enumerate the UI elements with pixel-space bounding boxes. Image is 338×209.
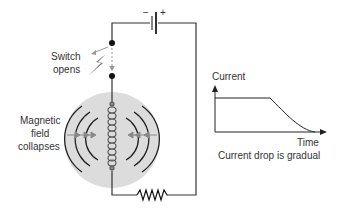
current-curve: [215, 98, 315, 132]
battery-icon: [152, 12, 156, 34]
switch-contact-top: [109, 40, 115, 46]
field-label-3: collapses: [18, 141, 60, 152]
inductor-circuit-diagram: − + Switch opens: [0, 0, 338, 209]
graph-ylabel: Current: [212, 71, 246, 82]
spark-bolt-icon: [88, 54, 106, 76]
battery-plus: +: [160, 7, 166, 18]
field-label-1: Magnetic: [20, 115, 61, 126]
switch-label-1: Switch: [51, 51, 80, 62]
current-graph: Current Time Current drop is gradual: [212, 71, 327, 161]
graph-xlabel: Time: [297, 137, 319, 148]
x-axis-arrow: [320, 129, 327, 135]
switch-contact-bottom: [109, 73, 115, 79]
battery-minus: −: [143, 7, 149, 18]
arrowhead-icon: [91, 50, 96, 55]
switch-label-2: opens: [53, 64, 80, 75]
resistor-icon: [137, 190, 168, 200]
graph-caption: Current drop is gradual: [218, 150, 320, 161]
field-label-2: field: [31, 128, 49, 139]
arrow-down-icon: [109, 66, 115, 71]
y-axis-arrow: [212, 85, 218, 92]
